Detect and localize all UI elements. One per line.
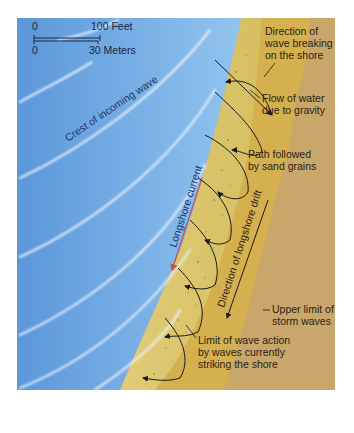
svg-text:Path followed: Path followed [248, 148, 311, 160]
gravity-flow-label: Flow of water due to gravity [262, 92, 326, 116]
svg-text:Upper limit of: Upper limit of [272, 303, 334, 315]
scale-meters-max: 30 Meters [89, 44, 136, 56]
svg-text:by sand grains: by sand grains [248, 160, 316, 172]
svg-text:striking the shore: striking the shore [198, 358, 278, 370]
svg-text:by waves currently: by waves currently [198, 346, 286, 358]
svg-text:wave breaking: wave breaking [264, 37, 333, 49]
scale-feet-zero: 0 [32, 20, 38, 32]
longshore-drift-diagram: 0 100 Feet 0 30 Meters Crest of incoming… [0, 0, 354, 433]
svg-text:due to gravity: due to gravity [262, 104, 326, 116]
scale-feet-max: 100 Feet [91, 20, 133, 32]
storm-limit-label: Upper limit of storm waves [272, 303, 334, 327]
wave-action-limit-label: Limit of wave action by waves currently … [198, 334, 290, 370]
svg-text:Limit of wave action: Limit of wave action [198, 334, 290, 346]
sand-path-label: Path followed by sand grains [248, 148, 316, 172]
svg-text:Direction of: Direction of [265, 25, 318, 37]
svg-text:storm waves: storm waves [272, 315, 331, 327]
svg-text:on the shore: on the shore [265, 49, 324, 61]
scale-meters-zero: 0 [32, 44, 38, 56]
svg-text:Flow of water: Flow of water [262, 92, 325, 104]
